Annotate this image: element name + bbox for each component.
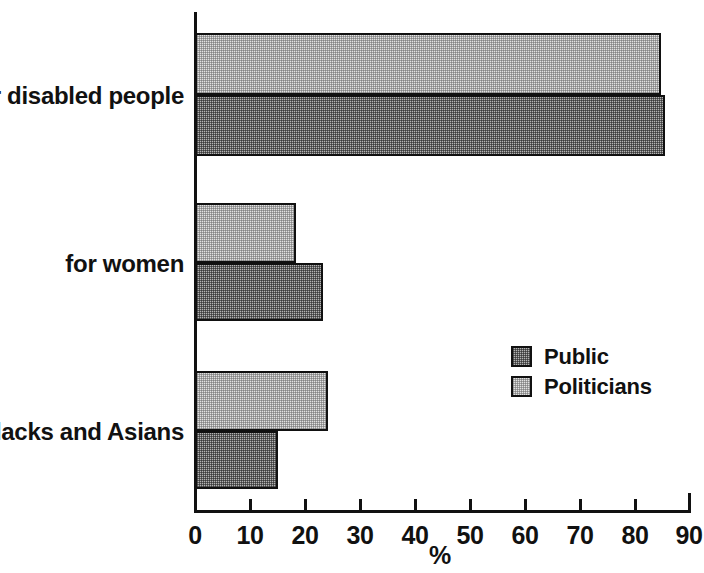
x-tick-10 xyxy=(249,499,252,510)
bar-public-for-blacks-and-asians xyxy=(195,431,278,489)
legend-label-politicians: Politicians xyxy=(544,374,652,400)
x-tick-label-20: 20 xyxy=(275,521,335,550)
x-axis-line xyxy=(194,510,691,513)
x-tick-label-80: 80 xyxy=(605,521,665,550)
x-tick-30 xyxy=(359,499,362,510)
x-tick-label-30: 30 xyxy=(330,521,390,550)
category-label-for-blacks-and-asians: for blacks and Asians xyxy=(0,418,184,446)
horizontal-bar-chart: 0 10 20 30 40 50 60 70 80 90 % for disab… xyxy=(0,0,704,573)
bar-public-for-disabled-people xyxy=(195,95,665,156)
category-label-for-disabled-people: for disabled people xyxy=(0,82,184,110)
x-tick-label-70: 70 xyxy=(550,521,610,550)
politicians-swatch-icon xyxy=(511,376,532,397)
x-tick-label-90: 90 xyxy=(659,521,704,550)
x-tick-40 xyxy=(414,499,417,510)
x-tick-90 xyxy=(688,493,691,510)
x-tick-20 xyxy=(304,499,307,510)
legend-label-public: Public xyxy=(544,344,609,370)
bar-politicians-for-blacks-and-asians xyxy=(195,371,328,431)
x-tick-60 xyxy=(524,499,527,510)
category-label-for-women: for women xyxy=(0,250,184,278)
public-swatch-icon xyxy=(511,346,532,367)
x-tick-label-60: 60 xyxy=(495,521,555,550)
x-tick-0 xyxy=(194,493,197,510)
x-tick-label-10: 10 xyxy=(220,521,280,550)
bar-politicians-for-women xyxy=(195,203,296,263)
x-axis-title: % xyxy=(410,541,470,570)
x-tick-70 xyxy=(579,499,582,510)
bar-public-for-women xyxy=(195,263,323,321)
bar-politicians-for-disabled-people xyxy=(195,33,661,95)
x-tick-50 xyxy=(469,499,472,510)
x-tick-80 xyxy=(634,499,637,510)
x-tick-label-0: 0 xyxy=(165,521,225,550)
